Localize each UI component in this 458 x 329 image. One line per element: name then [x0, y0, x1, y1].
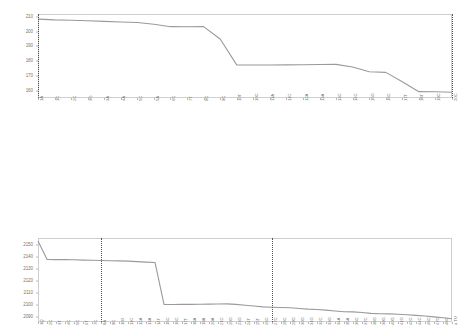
x-tick-label: 42C — [409, 317, 413, 325]
y-tick-label: 2120 — [23, 279, 33, 284]
x-tick-label: 41G — [400, 317, 404, 325]
x-tick-label: 17T — [184, 318, 188, 325]
y-tick-mark — [36, 269, 38, 270]
x-tick-label: 36C — [355, 317, 359, 325]
x-tick-label: 1Q — [40, 319, 44, 325]
x-tick-label: 27C — [274, 317, 278, 325]
y-tick-mark — [36, 317, 38, 318]
x-tick-label: 14T — [157, 318, 161, 325]
x-tick-label: 31G — [310, 317, 314, 325]
x-tick-label: 25T — [256, 318, 260, 325]
x-tick-label: 37C — [364, 317, 368, 325]
x-tick-label: 20G — [229, 317, 233, 325]
x-tick-label: 13A — [148, 318, 152, 325]
y-axis-bottom: 2090210021102120213021402150 — [0, 238, 38, 322]
vertical-marker-line — [452, 14, 453, 98]
x-tick-label: 23G — [238, 317, 242, 325]
x-tick-label: 15C — [166, 317, 170, 325]
x-tick-label: a TU — [454, 316, 458, 325]
x-tick-label: 29G — [292, 317, 296, 325]
x-axis-bottom: 1Q2C3T4C5C6T7C8A9C10011C12A13A14T15C16C1… — [38, 322, 452, 329]
x-tick-label: 26C — [265, 317, 269, 325]
vertical-marker-line — [101, 238, 102, 322]
x-tick-label: 11C — [130, 318, 134, 325]
x-tick-label: 21C — [220, 317, 224, 325]
x-tick-label: 44C — [418, 317, 422, 325]
x-tick-label: 100 — [121, 318, 125, 325]
series-line-bottom — [0, 116, 457, 232]
chart-top: 160170180190200210 1A1C2C3G3A4A5C5A6C7T8… — [0, 0, 457, 116]
x-tick-label: 24T — [247, 318, 251, 325]
x-tick-label: 2C — [49, 320, 53, 325]
x-tick-label: 47G — [436, 317, 440, 325]
y-tick-mark — [36, 245, 38, 246]
x-tick-label: 12A — [139, 318, 143, 325]
x-tick-label: 8A — [103, 320, 107, 325]
series-path — [38, 19, 452, 92]
x-tick-label: 9C — [112, 320, 116, 325]
x-tick-label: 46C — [427, 317, 431, 325]
y-tick-mark — [36, 281, 38, 282]
x-tick-label: 35A — [346, 318, 350, 325]
x-tick-label: 19A — [202, 318, 206, 325]
y-tick-mark — [36, 257, 38, 258]
series-line-top — [0, 0, 457, 116]
y-tick-label: 2100 — [23, 303, 33, 308]
y-tick-label: 2150 — [23, 243, 33, 248]
x-tick-label: 39G — [382, 317, 386, 325]
chart-bottom: 2090210021102120213021402150 1Q2C3T4C5C6… — [0, 116, 457, 232]
x-tick-label: 40G — [391, 317, 395, 325]
x-tick-label: 4C — [67, 320, 71, 325]
y-tick-mark — [36, 305, 38, 306]
x-tick-label: 32C — [319, 317, 323, 325]
x-tick-label: 5C — [76, 320, 80, 325]
x-tick-label: 6T — [85, 320, 89, 325]
x-tick-label: 20A — [211, 318, 215, 325]
x-tick-label: 18A — [193, 318, 197, 325]
vertical-marker-line — [38, 14, 39, 98]
y-tick-label: 2110 — [24, 291, 33, 296]
x-tick-label: 7C — [94, 320, 98, 325]
y-tick-label: 2090 — [23, 315, 33, 320]
x-tick-label: 3T — [58, 320, 62, 325]
x-tick-label: 38G — [373, 317, 377, 325]
vertical-marker-line — [272, 238, 273, 322]
y-tick-label: 2140 — [23, 255, 33, 260]
y-tick-mark — [36, 293, 38, 294]
y-tick-label: 2130 — [23, 267, 33, 272]
x-tick-label: 33G — [328, 317, 332, 325]
x-tick-label: 16C — [175, 317, 179, 325]
x-tick-label: 34A — [337, 318, 341, 325]
x-tick-label: 30G — [301, 317, 305, 325]
x-tick-label: 28C — [283, 317, 287, 325]
